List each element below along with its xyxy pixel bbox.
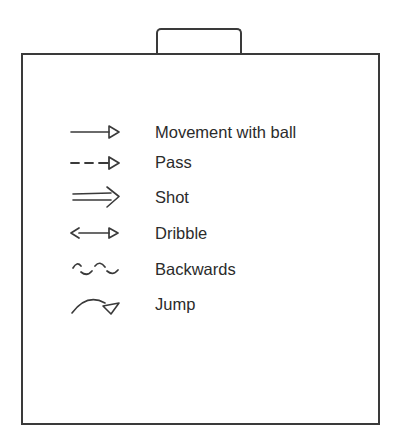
legend-item-backwards: Backwards xyxy=(23,254,378,284)
legend-item-movement-with-ball: Movement with ball xyxy=(23,117,378,147)
legend-label: Backwards xyxy=(155,258,236,280)
legend-item-pass: Pass xyxy=(23,147,378,177)
legend-label: Pass xyxy=(155,151,192,173)
folder-tab xyxy=(156,28,242,54)
legend-label: Dribble xyxy=(155,222,207,244)
legend-item-dribble: Dribble xyxy=(23,218,378,248)
solid-arrow-icon xyxy=(67,117,127,147)
legend-label: Shot xyxy=(155,186,189,208)
legend-item-jump: Jump xyxy=(23,289,378,319)
wavy-line-icon xyxy=(67,254,127,284)
legend-label: Movement with ball xyxy=(155,121,296,143)
legend-label: Jump xyxy=(155,293,195,315)
legend-item-shot: Shot xyxy=(23,182,378,212)
curved-arrow-icon xyxy=(67,289,127,319)
double-line-arrow-icon xyxy=(67,182,127,212)
legend-card: Movement with ball Pass Shot xyxy=(21,53,380,425)
double-headed-arrow-icon xyxy=(67,218,127,248)
dashed-arrow-icon xyxy=(67,147,127,177)
